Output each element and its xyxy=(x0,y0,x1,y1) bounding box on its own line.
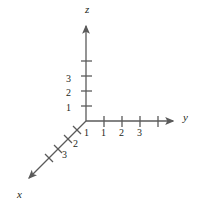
x-tick-label-1: 1 xyxy=(84,128,89,138)
z-tick-label-1: 1 xyxy=(66,103,71,113)
z-tick-label-3: 3 xyxy=(66,74,71,84)
x-axis-line xyxy=(29,121,86,178)
axes-drawing xyxy=(0,0,199,210)
z-axis-line xyxy=(81,26,92,121)
z-tick-label-2: 2 xyxy=(66,88,71,98)
x-axis-label: x xyxy=(17,189,22,200)
y-tick-label-2: 2 xyxy=(119,128,124,138)
x-tick-label-3: 3 xyxy=(62,150,67,160)
y-axis-line xyxy=(86,116,173,127)
y-tick-label-1: 1 xyxy=(101,128,106,138)
coordinate-axes-figure: z y x 1 2 3 1 2 3 1 2 3 xyxy=(0,0,199,210)
z-axis-label: z xyxy=(85,4,89,15)
y-axis-label: y xyxy=(183,112,188,123)
x-tick-label-2: 2 xyxy=(73,139,78,149)
y-tick-label-3: 3 xyxy=(137,128,142,138)
